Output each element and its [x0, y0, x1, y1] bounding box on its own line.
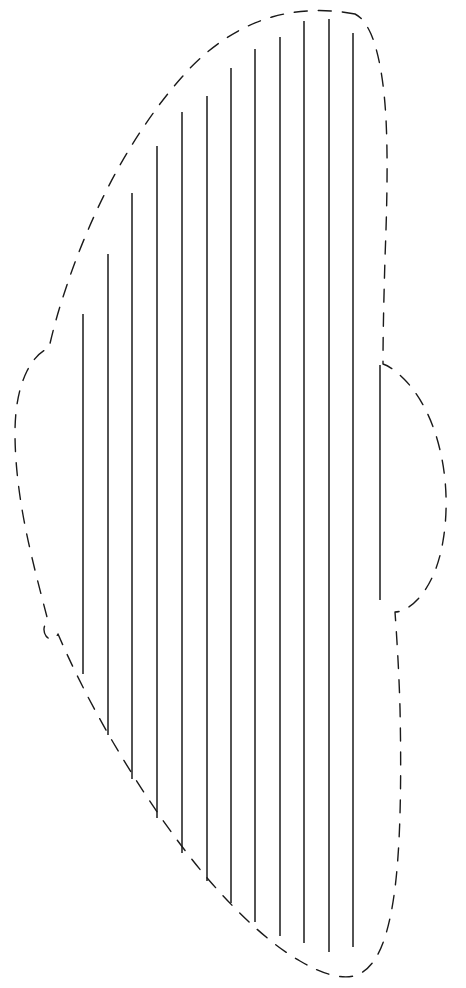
figure-canvas: Hatched contour outline A closed dashed … — [0, 0, 466, 988]
contour-hatch-figure: Hatched contour outline A closed dashed … — [0, 0, 466, 988]
figure-background — [0, 0, 466, 988]
